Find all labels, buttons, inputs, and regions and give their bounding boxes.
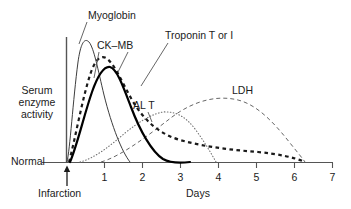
x-tick-label-7: 7 xyxy=(323,172,343,183)
leader-line-ckmb-right xyxy=(118,52,128,72)
x-tick-label-4: 4 xyxy=(209,172,229,183)
x-tick-label-5: 5 xyxy=(247,172,267,183)
normal-baseline-label: Normal xyxy=(11,155,45,167)
cardiac-enzyme-chart: Serum enzyme activity Normal Days Infarc… xyxy=(0,0,351,209)
curve-ckmb xyxy=(70,67,190,163)
infarction-label: Infarction xyxy=(38,187,81,199)
series-label-troponin: Troponin T or I xyxy=(165,29,233,41)
series-label-ldh: LDH xyxy=(232,84,253,96)
y-axis-title: Serum enzyme activity xyxy=(10,84,64,120)
series-label-alt: AL T xyxy=(133,99,155,111)
x-axis-title: Days xyxy=(186,187,210,199)
series-label-ckmb: CK–MB xyxy=(97,39,133,51)
curve-alt xyxy=(80,112,216,162)
x-tick-label-2: 2 xyxy=(133,172,153,183)
series-label-myoglobin: Myoglobin xyxy=(88,9,136,21)
x-axis-ticks xyxy=(105,163,333,169)
x-tick-label-3: 3 xyxy=(171,172,191,183)
x-tick-label-6: 6 xyxy=(285,172,305,183)
infarction-arrow-icon xyxy=(64,166,70,187)
x-tick-label-1: 1 xyxy=(95,172,115,183)
leader-line-troponin xyxy=(141,43,168,86)
curve-troponin xyxy=(69,57,305,162)
